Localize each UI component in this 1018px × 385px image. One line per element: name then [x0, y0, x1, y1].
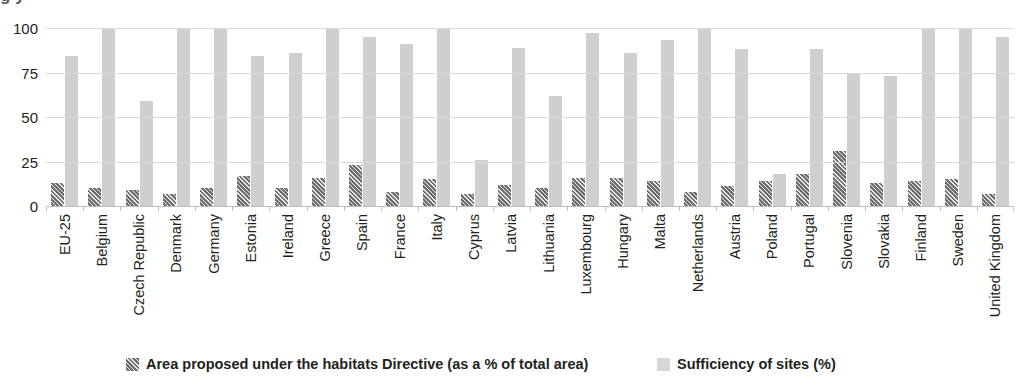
legend-item[interactable]: Area proposed under the habitats Directi… [126, 357, 588, 372]
x-axis-tick [791, 206, 828, 211]
x-axis-label-cell: Cyprus [456, 214, 493, 344]
x-axis-tick [567, 206, 604, 211]
bar [908, 181, 921, 206]
x-axis-tick [418, 206, 455, 211]
x-axis-label: Finland [914, 214, 929, 262]
bar [349, 165, 362, 206]
x-axis-tick [83, 206, 120, 211]
gridline [46, 73, 1014, 74]
bar [647, 181, 660, 206]
bar [386, 192, 399, 206]
x-axis-tick [940, 206, 977, 211]
bar [610, 178, 623, 206]
y-axis: 0255075100 [0, 0, 44, 212]
legend-item[interactable]: Sufficiency of sites (%) [657, 357, 836, 372]
bar [759, 181, 772, 206]
bar [624, 53, 637, 206]
x-axis-label: Estonia [244, 214, 259, 262]
x-axis-label: Netherlands [690, 214, 705, 292]
y-axis-tick-label: 25 [21, 154, 38, 169]
x-axis-label-cell: Netherlands [679, 214, 716, 344]
gridline [46, 117, 1014, 118]
x-axis-label-cell: Latvia [493, 214, 530, 344]
x-axis-tick [865, 206, 902, 211]
x-axis-tick [977, 206, 1014, 211]
bar [200, 188, 213, 206]
y-axis-tick-label: 75 [21, 65, 38, 80]
x-axis-tick [456, 206, 493, 211]
x-axis-label-cell: Luxembourg [567, 214, 604, 344]
bar [870, 183, 883, 206]
x-axis-label: Czech Republic [132, 214, 147, 316]
bar [312, 178, 325, 206]
plot-canvas [46, 28, 1014, 206]
x-axis-label: Latvia [504, 214, 519, 253]
x-axis-label-cell: Austria [716, 214, 753, 344]
x-axis-tick [493, 206, 530, 211]
legend-label: Sufficiency of sites (%) [677, 357, 836, 372]
x-axis-label: Cyprus [467, 214, 482, 260]
x-axis-label: Ireland [281, 214, 296, 258]
x-axis-label-cell: Hungary [605, 214, 642, 344]
bar [498, 185, 511, 206]
x-axis-tick [269, 206, 306, 211]
x-axis-tick [679, 206, 716, 211]
x-axis-tick [307, 206, 344, 211]
bar [684, 192, 697, 206]
bar [549, 96, 562, 206]
x-axis-label: Poland [765, 214, 780, 259]
x-axis-label-cell: Italy [418, 214, 455, 344]
x-axis-label: Lithuania [541, 214, 556, 273]
x-axis-tick [344, 206, 381, 211]
x-axis-label-cell: Slovakia [865, 214, 902, 344]
x-axis-label-cell: Denmark [158, 214, 195, 344]
bar [661, 40, 674, 206]
x-axis-tick [232, 206, 269, 211]
bar [982, 194, 995, 206]
x-axis-tick [381, 206, 418, 211]
bar [847, 74, 860, 206]
bar [400, 44, 413, 206]
x-axis-ticks [46, 206, 1014, 211]
legend-label: Area proposed under the habitats Directi… [146, 357, 588, 372]
bar [996, 37, 1009, 206]
x-axis-tick [158, 206, 195, 211]
x-axis-label-cell: Slovenia [828, 214, 865, 344]
bar [237, 176, 250, 206]
bar [88, 188, 101, 206]
x-axis-label: Slovakia [877, 214, 892, 269]
bar [721, 186, 734, 206]
x-axis-label: Italy [430, 214, 445, 241]
x-axis-label: Slovenia [839, 214, 854, 270]
x-axis-tick [716, 206, 753, 211]
chart-legend: Area proposed under the habitats Directi… [0, 352, 1018, 385]
y-axis-tick-label: 0 [30, 199, 38, 214]
x-axis-label-cell: Belgium [83, 214, 120, 344]
x-axis-label: EU-25 [57, 214, 72, 255]
bar [833, 151, 846, 206]
x-axis-label-cell: Czech Republic [120, 214, 157, 344]
x-axis-label: United Kingdom [988, 214, 1003, 317]
bar [796, 174, 809, 206]
x-axis-label: Germany [206, 214, 221, 274]
x-axis-label: France [392, 214, 407, 259]
bar [461, 194, 474, 206]
x-axis-label: Hungary [616, 214, 631, 269]
bar [423, 179, 436, 206]
bar [275, 188, 288, 206]
bar [475, 160, 488, 206]
bar [512, 48, 525, 206]
x-axis-label: Belgium [95, 214, 110, 266]
bar [126, 190, 139, 206]
x-axis-label: Portugal [802, 214, 817, 268]
x-axis-label-cell: Sweden [940, 214, 977, 344]
bar [773, 174, 786, 206]
x-axis-tick [530, 206, 567, 211]
bar [363, 37, 376, 206]
x-axis-tick [195, 206, 232, 211]
x-axis-label-cell: Greece [307, 214, 344, 344]
bar [884, 76, 897, 206]
x-axis-label: Greece [318, 214, 333, 262]
x-axis-label-cell: Poland [753, 214, 790, 344]
y-axis-tick-label: 100 [13, 21, 38, 36]
